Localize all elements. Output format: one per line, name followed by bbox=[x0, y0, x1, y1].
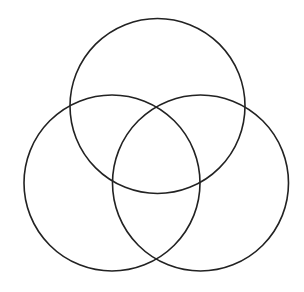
venn-diagram bbox=[0, 0, 304, 292]
venn-svg bbox=[0, 0, 304, 292]
